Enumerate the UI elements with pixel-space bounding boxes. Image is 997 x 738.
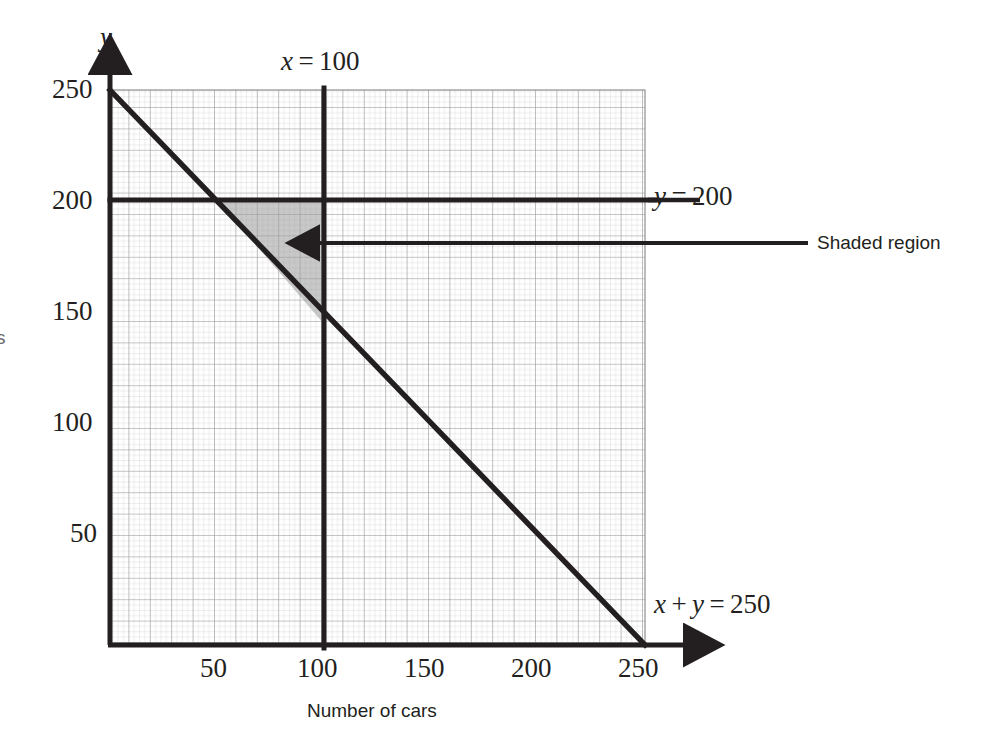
- xtick-label-250: 250: [618, 653, 659, 684]
- axis-x-name: x: [686, 628, 698, 659]
- yaxis-title-cropped: s: [0, 327, 6, 351]
- xtick-label-50: 50: [200, 653, 227, 684]
- axis-y-name: y: [100, 22, 112, 53]
- xtick-label-200: 200: [511, 653, 552, 684]
- xaxis-title: Number of cars: [307, 700, 437, 722]
- label-x-plus-y-equals-250: x + y = 250: [654, 589, 771, 620]
- ytick-label-250: 250: [52, 74, 93, 105]
- ytick-label-150: 150: [52, 296, 93, 327]
- label-x-equals-100: x = 100: [281, 46, 360, 77]
- shaded-region-label: Shaded region: [817, 232, 941, 254]
- ytick-label-100: 100: [52, 407, 93, 438]
- chart-figure: y x x = 100 y = 200 x + y = 250 Shaded r…: [0, 0, 997, 738]
- ytick-label-50: 50: [70, 518, 97, 549]
- chart-canvas: [0, 0, 997, 738]
- label-y-equals-200: y = 200: [654, 181, 733, 212]
- ytick-label-200: 200: [52, 185, 93, 216]
- xtick-label-100: 100: [297, 653, 338, 684]
- xtick-label-150: 150: [404, 653, 445, 684]
